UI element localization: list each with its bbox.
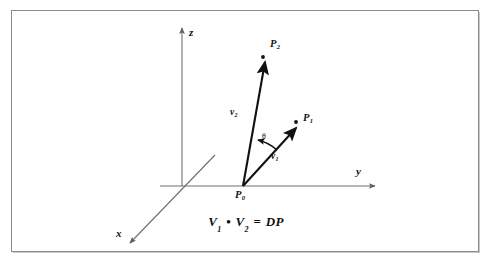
equation-right-vector: V xyxy=(236,214,245,229)
point-p1-label: P1 xyxy=(303,113,313,124)
equation-right-sub: 2 xyxy=(245,225,249,234)
vector-v2-sub: 2 xyxy=(235,112,238,118)
vector-v1-sub: 1 xyxy=(276,156,279,162)
point-p1-sub: 1 xyxy=(310,117,313,124)
point-p2-sub: 2 xyxy=(277,43,280,50)
equation-left-sub: 1 xyxy=(217,225,221,234)
equation-result: DP xyxy=(266,214,284,229)
angle-theta-label: θ xyxy=(262,133,266,141)
z-axis-label: z xyxy=(189,27,193,38)
equation-dot-operator: • xyxy=(225,214,232,229)
point-p2-dot xyxy=(261,55,265,59)
equation-caption: V1 • V2 = DP xyxy=(0,214,492,232)
equation-left-vector: V xyxy=(208,214,217,229)
point-p2-label: P2 xyxy=(270,39,280,50)
point-p0-label: P0 xyxy=(235,190,245,201)
vector-v2-line xyxy=(243,62,265,186)
figure-container: z y x P0 P1 P2 v2 v1 θ V1 • V2 = DP xyxy=(0,0,492,265)
point-p0-sub: 0 xyxy=(242,194,245,201)
point-p1-dot xyxy=(294,120,298,124)
angle-arc xyxy=(258,140,277,150)
vector-v1-letter: v xyxy=(271,151,275,161)
vector-v1-label: v1 xyxy=(271,152,279,162)
vector-v2-letter: v xyxy=(230,107,234,117)
point-p2-letter: P xyxy=(270,38,277,49)
point-p0-letter: P xyxy=(235,189,242,200)
y-axis-label: y xyxy=(356,166,361,177)
vector-v2-label: v2 xyxy=(230,108,238,118)
equation-equals: = xyxy=(252,214,262,229)
point-p1-letter: P xyxy=(303,112,310,123)
